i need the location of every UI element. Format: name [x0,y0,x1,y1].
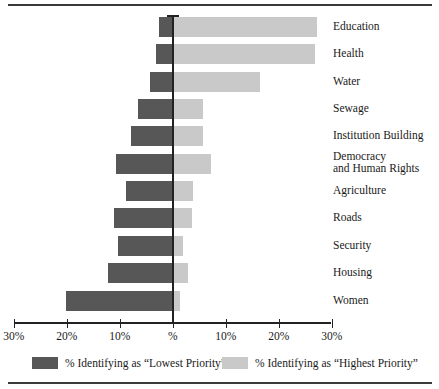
x-axis-tick-label: 20% [259,330,299,342]
chart-row: Housing [0,260,439,287]
chart-row: Education [0,14,439,41]
chart-legend: % Identifying as “Lowest Priority” % Ide… [0,355,439,375]
plot-area: EducationHealthWaterSewageInstitution Bu… [0,14,439,322]
category-label: Agriculture [333,184,439,197]
legend-item-lowest-priority: % Identifying as “Lowest Priority” [32,355,226,371]
bar-highest-priority [173,208,193,228]
bar-lowest-priority [131,126,173,146]
category-label: Institution Building [333,129,439,142]
x-axis-tick-label: 30% [0,330,34,342]
zero-axis-line [172,16,174,322]
chart-row: Water [0,69,439,96]
bar-lowest-priority [126,181,173,201]
x-axis: 30%20%10%%10%20%30% [0,322,439,346]
bar-lowest-priority [156,44,173,64]
bar-lowest-priority [138,99,172,119]
x-axis-tick [120,319,121,328]
bar-highest-priority [173,44,315,64]
legend-label-lowest-priority: % Identifying as “Lowest Priority” [65,357,226,369]
x-axis-tick-label: 10% [206,330,246,342]
bar-lowest-priority [108,263,173,283]
chart-row: Institution Building [0,123,439,150]
bar-lowest-priority [114,208,173,228]
legend-swatch-lowest-priority [32,357,58,369]
bar-highest-priority [173,236,183,256]
x-axis-tick-label: 20% [47,330,87,342]
bottom-divider-rule [8,382,432,384]
legend-swatch-highest-priority [222,357,248,369]
category-label: Water [333,75,439,88]
bar-highest-priority [173,291,180,311]
category-label: Sewage [333,102,439,115]
x-axis-tick-label: % [153,330,193,342]
chart-row: Roads [0,205,439,232]
bar-lowest-priority [116,154,173,174]
x-axis-tick-label: 30% [312,330,352,342]
bar-highest-priority [173,72,260,92]
category-label: Education [333,20,439,33]
x-axis-tick [67,319,68,328]
category-label: Housing [333,266,439,279]
category-label: Health [333,47,439,60]
x-axis-tick [173,319,174,328]
zero-axis-cap [167,15,179,17]
x-axis-tick [226,319,227,328]
chart-row: Democracy and Human Rights [0,151,439,178]
bar-lowest-priority [118,236,173,256]
category-label: Democracy and Human Rights [333,150,439,174]
chart-row: Health [0,41,439,68]
legend-label-highest-priority: % Identifying as “Highest Priority” [255,357,418,369]
bar-lowest-priority [150,72,172,92]
category-label: Roads [333,211,439,224]
x-axis-tick [279,319,280,328]
x-axis-tick-label: 10% [100,330,140,342]
category-label: Women [333,294,439,307]
bar-highest-priority [173,263,188,283]
category-label: Security [333,239,439,252]
chart-row: Agriculture [0,178,439,205]
bar-highest-priority [173,17,317,37]
bar-highest-priority [173,181,193,201]
x-axis-tick [14,319,15,328]
bar-highest-priority [173,126,203,146]
bar-highest-priority [173,154,211,174]
x-axis-tick [332,319,333,328]
chart-row: Security [0,233,439,260]
chart-row: Women [0,288,439,315]
bar-lowest-priority [159,17,173,37]
chart-figure: EducationHealthWaterSewageInstitution Bu… [0,0,439,389]
legend-item-highest-priority: % Identifying as “Highest Priority” [222,355,418,371]
bar-highest-priority [173,99,204,119]
chart-row: Sewage [0,96,439,123]
bar-lowest-priority [66,291,173,311]
top-divider-rule [8,4,432,6]
